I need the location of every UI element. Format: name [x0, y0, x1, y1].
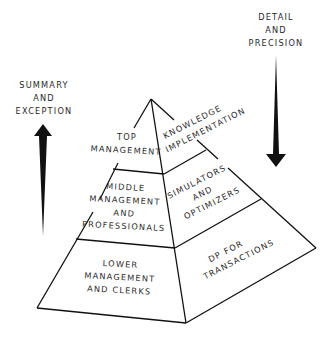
detail-label: DETAIL AND PRECISION: [249, 12, 304, 48]
and-text: AND: [265, 25, 287, 35]
pyramid-diagram: SUMMARY AND EXCEPTION DETAIL AND PRECISI…: [0, 0, 333, 339]
tier-label: PROFESSIONALS: [82, 219, 166, 233]
and-text: AND: [33, 93, 55, 103]
tier-label: TOP: [116, 132, 137, 142]
tier-label: AND CLERKS: [87, 283, 152, 296]
tier-top-left: TOP MANAGEMENT: [90, 132, 162, 157]
tier-lower-left: LOWER MANAGEMENT AND CLERKS: [83, 257, 156, 297]
tier-lower-right: DP FOR TRANSACTIONS: [195, 225, 276, 281]
tier-label: MANAGEMENT: [90, 143, 162, 157]
summary-label: SUMMARY AND EXCEPTION: [16, 80, 73, 116]
tier-label: AND: [113, 207, 135, 218]
detail-text: DETAIL: [258, 12, 294, 22]
summary-text: SUMMARY: [19, 80, 69, 90]
down-arrow-icon: [266, 55, 286, 167]
up-arrow-icon: [34, 124, 52, 236]
precision-text: PRECISION: [249, 38, 304, 48]
tier-label: MIDDLE: [106, 181, 146, 193]
tier-label: LOWER: [103, 258, 139, 270]
exception-text: EXCEPTION: [16, 106, 73, 116]
tier-middle-left: MIDDLE MANAGEMENT AND PROFESSIONALS: [82, 180, 168, 233]
tier-label: MANAGEMENT: [89, 193, 161, 207]
tier-label: MANAGEMENT: [84, 270, 156, 284]
